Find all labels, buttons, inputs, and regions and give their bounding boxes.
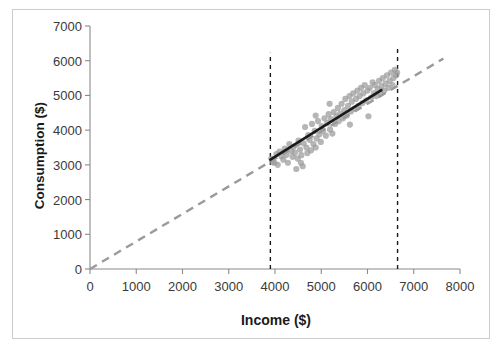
- scatter-point: [365, 113, 371, 119]
- scatter-point: [285, 160, 291, 166]
- x-tick-label: 6000: [353, 279, 382, 294]
- fitted-regression-line: [270, 90, 381, 159]
- reference-45-degree-line: [90, 59, 443, 269]
- scatter-point: [275, 162, 281, 168]
- scatter-point: [313, 112, 319, 118]
- scatter-point: [389, 82, 395, 88]
- scatter-point: [326, 101, 332, 107]
- x-tick-label: 1000: [122, 279, 151, 294]
- y-tick-label: 7000: [34, 19, 82, 34]
- scatter-point: [302, 124, 308, 130]
- scatter-point: [298, 152, 304, 158]
- scatter-point: [298, 160, 304, 166]
- x-tick-label: 5000: [307, 279, 336, 294]
- scatter-point: [323, 133, 329, 139]
- axes-group: [85, 26, 460, 274]
- x-tick-label: 7000: [399, 279, 428, 294]
- scatter-point: [313, 144, 319, 150]
- scatter-point: [293, 166, 299, 172]
- scatter-point: [329, 131, 335, 137]
- scatter-point: [309, 121, 315, 127]
- x-tick-label: 3000: [214, 279, 243, 294]
- x-tick-label: 0: [86, 279, 93, 294]
- x-tick-label: 4000: [261, 279, 290, 294]
- scatter-point: [297, 146, 303, 152]
- scatter-chart-figure: 01000200030004000500060007000 0100020003…: [0, 0, 502, 356]
- scatter-point: [347, 121, 353, 127]
- scatter-point: [318, 139, 324, 145]
- x-tick-label: 2000: [168, 279, 197, 294]
- y-tick-label: 0: [34, 262, 82, 277]
- y-axis-title: Consumption ($): [32, 61, 47, 251]
- x-axis-title: Income ($): [90, 312, 462, 328]
- scatter-point: [394, 69, 400, 75]
- x-tick-label: 8000: [446, 279, 475, 294]
